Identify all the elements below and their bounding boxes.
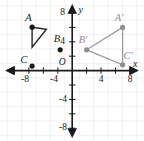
graph-canvas: -8 -4 4 8 8 4 -4 -8 O y x A B C xyxy=(0,0,144,141)
vertex-b xyxy=(58,47,63,52)
x-tick-label-8: 8 xyxy=(128,74,133,84)
label-c-prime: C' xyxy=(123,50,133,61)
origin-label: O xyxy=(59,57,66,67)
vertex-a-prime xyxy=(120,25,125,30)
y-tick-label-neg8: -8 xyxy=(59,122,67,132)
label-b: B xyxy=(54,33,61,44)
coordinate-plane-figure: -8 -4 4 8 8 4 -4 -8 O y x A B C xyxy=(0,0,144,141)
x-tick-label-neg4: -4 xyxy=(50,74,58,84)
label-b-prime: B' xyxy=(79,34,88,45)
y-axis-label: y xyxy=(78,4,84,15)
vertex-c xyxy=(29,64,34,69)
vertex-b-prime xyxy=(84,47,89,52)
label-c: C xyxy=(20,54,28,65)
label-a: A xyxy=(24,12,32,23)
y-tick-label-neg4: -4 xyxy=(59,94,67,104)
y-tick-label-8: 8 xyxy=(60,7,65,17)
x-tick-label-4: 4 xyxy=(99,74,104,84)
y-tick-label-4: 4 xyxy=(60,36,65,46)
x-axis-label: x xyxy=(132,58,138,69)
label-a-prime: A' xyxy=(114,12,124,23)
vertex-c-prime xyxy=(120,62,125,67)
vertex-a xyxy=(29,25,34,30)
x-tick-label-neg8: -8 xyxy=(21,74,29,84)
